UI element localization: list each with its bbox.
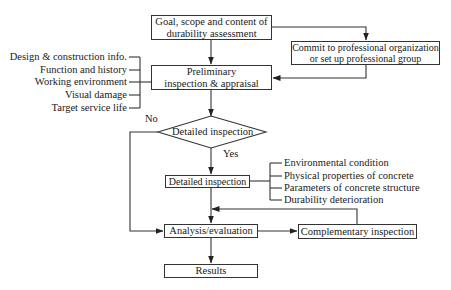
preliminary-input-1: Function and history (40, 64, 127, 76)
edge-label-no: No (145, 113, 158, 125)
preliminary-input-0: Design & construction info. (10, 51, 127, 63)
detailed-item-1: Physical properties of concrete (284, 170, 414, 182)
edge-label-yes: Yes (223, 148, 238, 160)
preliminary-box: Preliminary inspection & appraisal (151, 65, 272, 90)
analysis-label: Analysis/evaluation (169, 225, 252, 237)
detailed-inspection-label: Detailed inspection (169, 176, 246, 188)
goal-box: Goal, scope and content of durability as… (151, 15, 272, 40)
complementary-label: Complementary inspection (301, 226, 414, 238)
commit-line2: or set up professional group (310, 53, 422, 65)
preliminary-line1: Preliminary (187, 66, 237, 78)
results-box: Results (164, 264, 258, 278)
goal-line1: Goal, scope and content of (155, 16, 267, 28)
analysis-box: Analysis/evaluation (164, 224, 258, 238)
preliminary-input-3: Visual damage (65, 89, 127, 101)
complementary-box: Complementary inspection (298, 224, 417, 239)
detailed-inspection-box: Detailed inspection (165, 175, 250, 188)
detailed-item-0: Environmental condition (284, 157, 389, 169)
commit-line1: Commit to professional organization (292, 42, 439, 54)
preliminary-line2: inspection & appraisal (164, 78, 258, 90)
commit-box: Commit to professional organization or s… (291, 41, 440, 65)
detailed-item-3: Durability deterioration (284, 194, 383, 206)
results-label: Results (196, 265, 227, 277)
preliminary-input-4: Target service life (52, 102, 127, 114)
decision-label: Detailed inspection (172, 126, 250, 138)
goal-line2: durability assessment (166, 28, 256, 40)
preliminary-input-2: Working environment (35, 76, 127, 88)
detailed-item-2: Parameters of concrete structure (284, 182, 420, 194)
